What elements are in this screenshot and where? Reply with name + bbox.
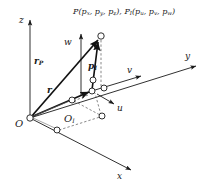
vector-p-i-sub: I (94, 64, 97, 71)
dashed-base-edge-1 (74, 101, 100, 115)
node-left (69, 97, 75, 103)
axis-label-w: w (64, 38, 72, 47)
node-upper (90, 77, 96, 83)
point-p-label: P(px, py, pz), PI(pu, pv, pw) (73, 8, 175, 17)
point-p-label-part4: ), P (116, 7, 130, 16)
node-lower-right (99, 113, 105, 119)
point-p-label-end: ) (172, 7, 175, 16)
origin-global-label: O (15, 119, 23, 129)
node-right-upper (101, 85, 107, 91)
axis-label-v: v (127, 66, 132, 75)
axis-label-z: z (19, 16, 24, 25)
local-axis-u (97, 94, 114, 104)
origin-global-marker (27, 115, 33, 121)
point-p-marker (98, 33, 104, 39)
vector-label-p-i: pI (88, 62, 97, 71)
point-p-label-part5: (p (132, 7, 140, 16)
point-p-label-part7: , p (157, 7, 167, 16)
point-p-label-part6: , p (144, 7, 154, 16)
vector-r-p-sub: P (39, 59, 44, 66)
point-p-label-part3: , p (103, 7, 113, 16)
diagram-canvas (0, 0, 208, 194)
origin-local-label: OI (64, 114, 75, 124)
origin-local-marker (89, 88, 95, 94)
origin-local-sub: I (72, 117, 74, 124)
vector-r-p (31, 40, 98, 117)
figure-3d-coordinate-frames: P(px, py, pz), PI(pu, pv, pw) z y x w v … (0, 0, 208, 194)
global-axis-y (30, 66, 196, 118)
origin-local-letter: O (64, 113, 72, 124)
point-p-label-part2: , p (90, 7, 100, 16)
axis-label-y: y (185, 52, 190, 61)
node-on-x-axis (54, 127, 60, 133)
axis-label-x: x (117, 172, 122, 181)
axis-label-u: u (117, 104, 123, 113)
global-axis-x (30, 118, 131, 170)
point-p-label-part1: P(p (73, 7, 87, 16)
vector-label-r: r (47, 86, 52, 95)
vector-label-r-p: rP (34, 57, 43, 66)
